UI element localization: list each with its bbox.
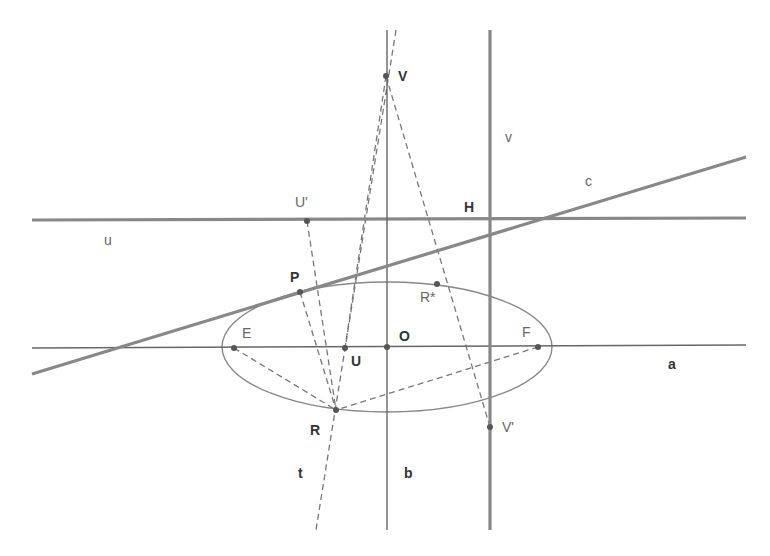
point-label-r-: R* (420, 289, 436, 305)
point-f (535, 344, 541, 350)
dashed-line-uprime-r (307, 221, 336, 410)
line-label-b: b (404, 465, 413, 481)
line-label-u: u (104, 232, 112, 248)
point-label-e: E (242, 325, 251, 341)
point-v (383, 73, 389, 79)
point-label-h: H (464, 199, 474, 215)
geometry-diagram: tuabvcVHU'PR*EUOFRV' (0, 0, 770, 556)
point-label-v-: V' (502, 419, 514, 435)
point-e (231, 345, 237, 351)
dashed-line-e-r (234, 348, 336, 410)
point-r (333, 407, 339, 413)
point-label-p: P (290, 269, 299, 285)
dashed-line-v-u (345, 76, 386, 348)
point-label-u-: U' (295, 194, 308, 210)
point-label-r: R (310, 422, 320, 438)
line-label-c: c (585, 173, 592, 189)
dashed-line-p-r (300, 292, 336, 410)
point-p (297, 289, 303, 295)
line-label-v: v (505, 129, 512, 145)
point-u- (304, 218, 310, 224)
point-v- (487, 424, 493, 430)
point-label-u: U (351, 353, 361, 369)
point-label-v: V (398, 68, 408, 84)
line-c (32, 157, 746, 374)
point-label-o: O (399, 328, 410, 344)
point-label-f: F (522, 324, 531, 340)
line-label-t: t (298, 465, 303, 481)
dashed-construction-lines (234, 30, 538, 530)
dashed-line-t (316, 30, 396, 530)
point-o (384, 344, 390, 350)
point-u (342, 345, 348, 351)
labels: tuabvcVHU'PR*EUOFRV' (104, 68, 676, 481)
line-label-a: a (668, 356, 676, 372)
solid-lines (32, 30, 746, 530)
dashed-line-f-r (336, 347, 538, 410)
point-r- (434, 281, 440, 287)
line-u (32, 218, 746, 220)
points (231, 73, 541, 430)
